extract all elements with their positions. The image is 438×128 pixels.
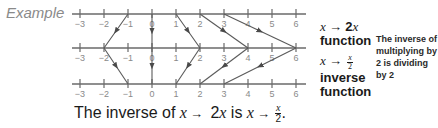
tick-label: 2 (197, 19, 202, 29)
function-rule: x → 2x (320, 19, 358, 34)
tick-label: 1 (173, 89, 178, 99)
tick-label: 6 (293, 19, 298, 29)
function-arrow (176, 14, 200, 48)
side-note: The inverse of multiplying by 2 is divid… (376, 33, 438, 81)
tick-label: 5 (269, 89, 274, 99)
tick-label: 0 (149, 89, 154, 99)
tick-label: −3 (75, 19, 85, 29)
tick-label: 4 (245, 53, 250, 63)
tick-label: 2 (197, 89, 202, 99)
tick-label: 3 (221, 19, 226, 29)
tick-label: 2 (197, 53, 202, 63)
inverse-rule: x → x2 (320, 53, 353, 68)
function-label: x → 2x function (320, 20, 371, 48)
function-word: function (320, 34, 371, 48)
tick-label: 1 (173, 19, 178, 29)
tick-label: 1 (173, 53, 178, 63)
function-arrow (224, 14, 296, 48)
tick-label: −1 (123, 89, 133, 99)
tick-label: −1 (123, 53, 133, 63)
function-word-2: function (320, 85, 371, 99)
inverse-word: inverse (320, 71, 371, 85)
tick-label: 5 (269, 19, 274, 29)
inverse-arrow (176, 48, 200, 84)
inverse-function-label: x → x2 inverse function (320, 54, 371, 99)
caption: The inverse of x→ 2x is x→x2. (74, 103, 286, 124)
tick-label: 5 (269, 53, 274, 63)
number-lines: −3−2−10123456−3−2−10123456−3−2−10123456 (72, 9, 306, 99)
tick-label: 4 (245, 89, 250, 99)
tick-label: −3 (75, 89, 85, 99)
tick-label: −2 (99, 89, 109, 99)
inverse-arrow (224, 48, 296, 84)
tick-label: 3 (221, 53, 226, 63)
tick-label: 3 (221, 89, 226, 99)
tick-label: −3 (75, 53, 85, 63)
tick-label: −1 (123, 19, 133, 29)
tick-label: −2 (99, 19, 109, 29)
fraction-x-over-2: x2 (347, 54, 353, 71)
tick-label: 6 (293, 53, 298, 63)
tick-label: −2 (99, 53, 109, 63)
tick-label: 6 (293, 89, 298, 99)
